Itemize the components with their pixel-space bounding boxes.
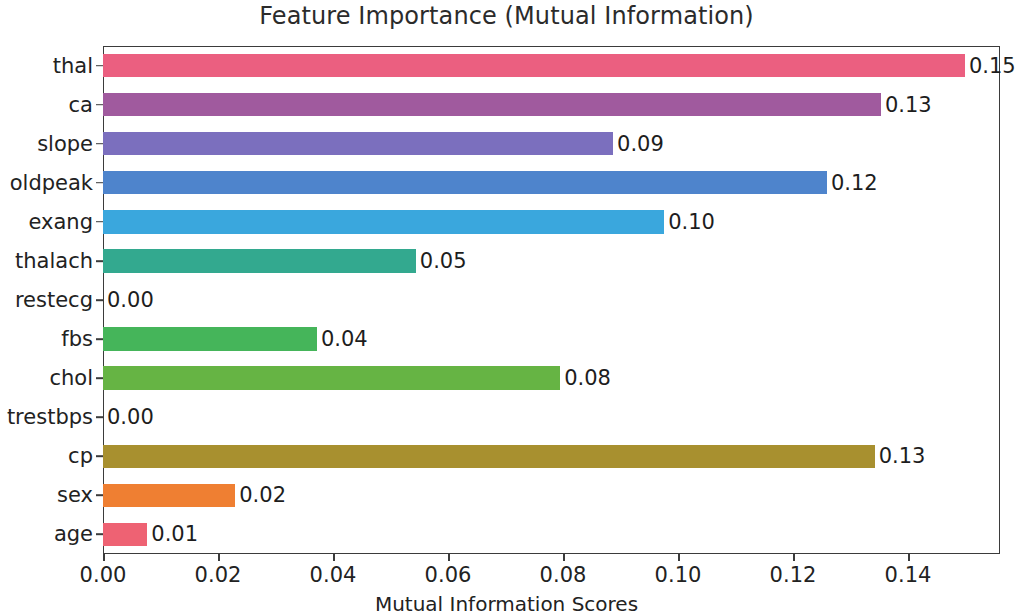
y-axis-labels: thalcaslopeoldpeakexangthalachrestecgfbs… (0, 46, 95, 554)
bar-value-thalach: 0.05 (416, 249, 467, 273)
bar-value-restecg: 0.00 (103, 288, 154, 312)
bar-oldpeak (103, 171, 827, 194)
y-axis-label-age: age (54, 522, 95, 546)
x-axis-tick (793, 554, 795, 561)
x-axis-tick-label: 0.00 (80, 563, 127, 587)
x-axis-tick (103, 554, 105, 561)
bar-row: 0.12 (103, 171, 1000, 194)
y-axis-tick (96, 299, 103, 301)
y-axis-tick (96, 104, 103, 106)
bar-value-exang: 0.10 (664, 210, 715, 234)
bar-sex (103, 484, 235, 507)
y-axis-label-restecg: restecg (15, 288, 95, 312)
y-axis-label-oldpeak: oldpeak (10, 171, 95, 195)
x-axis-tick-label: 0.10 (655, 563, 702, 587)
y-axis-tick (96, 143, 103, 145)
bar-value-ca: 0.13 (881, 93, 932, 117)
x-axis-tick-label: 0.12 (770, 563, 817, 587)
y-axis-label-slope: slope (37, 132, 95, 156)
x-axis-tick-label: 0.06 (425, 563, 472, 587)
bar-row: 0.09 (103, 132, 1000, 155)
bar-thal (103, 54, 965, 77)
y-axis-label-sex: sex (57, 483, 95, 507)
y-axis-label-thal: thal (53, 54, 95, 78)
x-axis-tick (333, 554, 335, 561)
x-axis-tick-label: 0.02 (195, 563, 242, 587)
y-axis-tick (96, 377, 103, 379)
bar-value-slope: 0.09 (613, 132, 664, 156)
bar-value-sex: 0.02 (235, 483, 286, 507)
y-axis-label-thalach: thalach (15, 249, 95, 273)
y-axis-tick (96, 65, 103, 67)
bar-cp (103, 445, 875, 468)
bar-row: 0.00 (103, 406, 1000, 429)
y-axis-tick (96, 416, 103, 418)
bar-thalach (103, 249, 416, 272)
y-axis-tick (96, 495, 103, 497)
y-axis-label-chol: chol (49, 366, 95, 390)
bar-row: 0.08 (103, 366, 1000, 389)
y-axis-tick (96, 456, 103, 458)
x-axis-tick (908, 554, 910, 561)
bar-row: 0.00 (103, 288, 1000, 311)
bar-row: 0.02 (103, 484, 1000, 507)
y-axis-tick (96, 182, 103, 184)
y-axis-label-exang: exang (29, 210, 96, 234)
x-axis-title: Mutual Information Scores (0, 592, 1013, 615)
bar-row: 0.13 (103, 93, 1000, 116)
bar-row: 0.04 (103, 327, 1000, 350)
bar-value-fbs: 0.04 (317, 327, 368, 351)
bars-layer: 0.150.130.090.120.100.050.000.040.080.00… (103, 46, 1000, 554)
bar-fbs (103, 327, 317, 350)
bar-exang (103, 210, 664, 233)
bar-value-trestbps: 0.00 (103, 405, 154, 429)
bar-chol (103, 366, 560, 389)
y-axis-label-cp: cp (68, 444, 95, 468)
bar-row: 0.13 (103, 445, 1000, 468)
bar-slope (103, 132, 613, 155)
y-axis-tick (96, 338, 103, 340)
x-axis-tick (563, 554, 565, 561)
bar-value-chol: 0.08 (560, 366, 611, 390)
y-axis-tick (96, 221, 103, 223)
y-axis-label-trestbps: trestbps (7, 405, 95, 429)
x-axis-tick-label: 0.04 (310, 563, 357, 587)
bar-value-oldpeak: 0.12 (827, 171, 878, 195)
bar-row: 0.05 (103, 249, 1000, 272)
bar-row: 0.10 (103, 210, 1000, 233)
bar-row: 0.01 (103, 523, 1000, 546)
x-axis-tick-labels: 0.000.020.040.060.080.100.120.14 (0, 563, 1013, 595)
bar-age (103, 523, 147, 546)
bar-row: 0.15 (103, 54, 1000, 77)
y-axis-label-ca: ca (69, 93, 95, 117)
bar-ca (103, 93, 881, 116)
x-axis-tick-label: 0.14 (885, 563, 932, 587)
y-axis-tick (96, 534, 103, 536)
bar-value-age: 0.01 (147, 522, 198, 546)
x-axis-tick (678, 554, 680, 561)
x-axis-tick-label: 0.08 (540, 563, 587, 587)
bar-value-cp: 0.13 (875, 444, 926, 468)
y-axis-label-fbs: fbs (61, 327, 95, 351)
chart-title: Feature Importance (Mutual Information) (0, 2, 1013, 30)
x-axis-tick (218, 554, 220, 561)
bar-value-thal: 0.15 (965, 54, 1016, 78)
y-axis-tick (96, 260, 103, 262)
x-axis-tick (448, 554, 450, 561)
